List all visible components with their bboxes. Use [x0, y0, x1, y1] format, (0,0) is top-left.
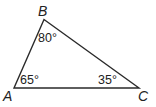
triangle-diagram: A B C 65° 80° 35°: [0, 0, 156, 107]
angle-label-b: 80°: [38, 31, 57, 45]
vertex-label-c: C: [138, 88, 149, 104]
vertex-label-b: B: [38, 3, 47, 19]
angle-label-c: 35°: [98, 73, 117, 87]
triangle-svg: A B C 65° 80° 35°: [0, 0, 156, 107]
angle-label-a: 65°: [20, 73, 39, 87]
vertex-label-a: A: [2, 88, 12, 104]
